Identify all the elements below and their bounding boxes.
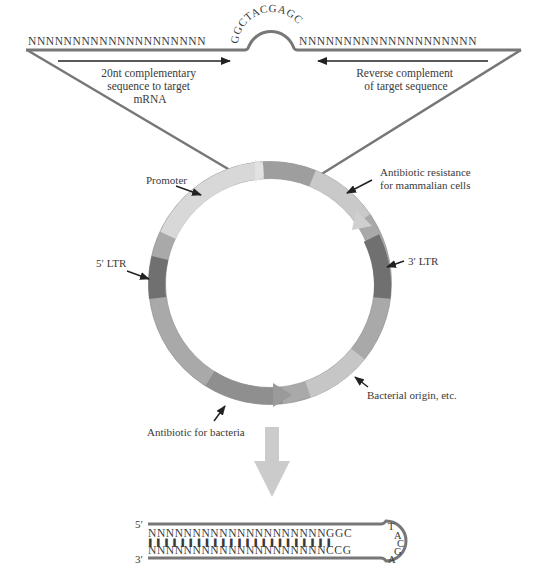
three-prime-label: 3′ — [135, 553, 143, 565]
left-stem-sequence: NNNNNNNNNNNNNNNNNNNN — [28, 35, 206, 47]
ltr5-pointer — [127, 271, 149, 279]
bacterial-origin-segment — [308, 354, 358, 390]
expression-arrow — [254, 427, 290, 497]
sense-label: 20nt complementary sequence to target mR… — [101, 67, 199, 105]
ltr5-segment — [157, 258, 160, 298]
shrna-hairpin: 5′ 3′ NNNNNNNNNNNNNNNNNNNNGGC ▌▌▌▌▌▌▌▌▌▌… — [135, 518, 408, 565]
shrna-insert: NNNNNNNNNNNNNNNNNNNN NNNNNNNNNNNNNNNNNNN… — [26, 2, 521, 180]
mammalian-resistance-pointer — [347, 180, 372, 193]
bacterial-antibiotic-pointer — [214, 406, 225, 421]
ltr3-segment — [372, 238, 383, 298]
label-bacterial-antibiotic: Antibiotic for bacteria — [147, 426, 245, 438]
label-promoter: Promoter — [146, 174, 187, 186]
loop-sequence: GGCTACGAGC — [228, 2, 306, 44]
top-strand: NNNNNNNNNNNNNNNNNNNNGGC — [148, 527, 352, 539]
label-mammalian-resistance: Antibiotic resistance for mammalian cell… — [380, 166, 473, 191]
label-bacterial-origin: Bacterial origin, etc. — [367, 389, 457, 401]
label-ltr3: 3′ LTR — [408, 255, 439, 267]
shrna-plasmid-diagram: NNNNNNNNNNNNNNNNNNNN NNNNNNNNNNNNNNNNNNN… — [0, 0, 543, 574]
label-ltr5: 5′ LTR — [96, 257, 127, 269]
right-stem-sequence: NNNNNNNNNNNNNNNNNNNN — [299, 35, 477, 47]
antisense-label: Reverse complement of target sequence — [356, 67, 456, 93]
bottom-strand: NNNNNNNNNNNNNNNNNNNNCCG — [148, 544, 352, 556]
bacterial-origin-pointer — [355, 377, 368, 387]
insert-segment — [264, 170, 313, 178]
five-prime-label: 5′ — [135, 518, 143, 530]
plasmid-map: Promoter Antibiotic resistance for mamma… — [96, 160, 473, 438]
